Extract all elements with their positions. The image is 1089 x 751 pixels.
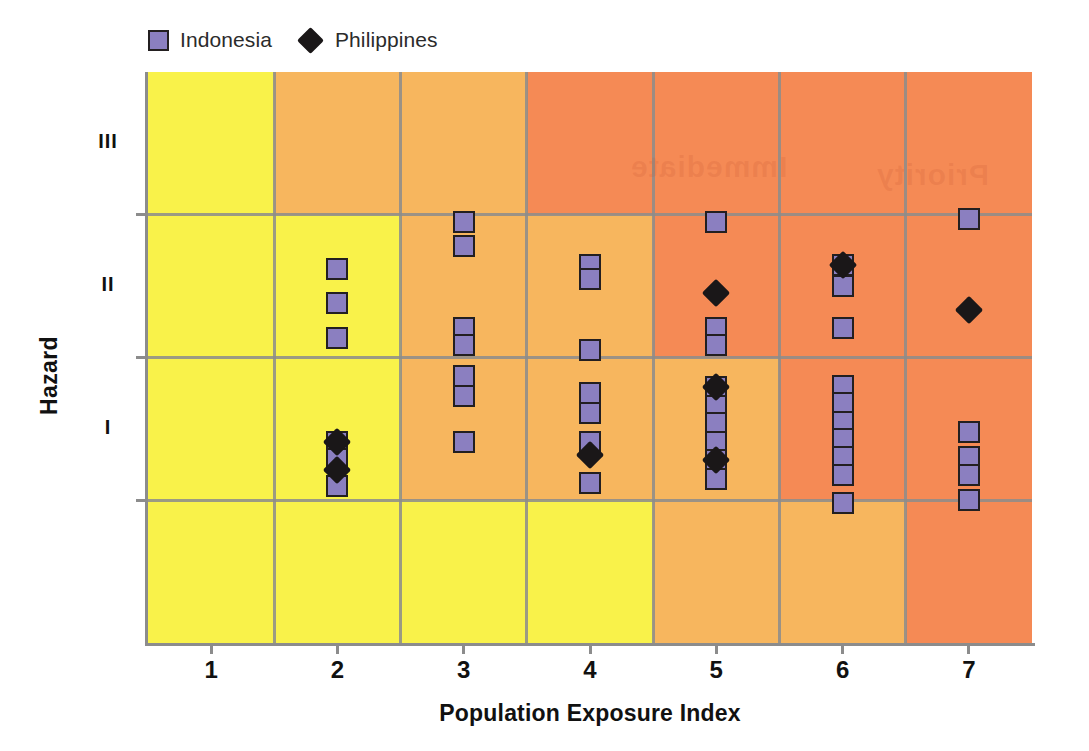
data-point-diamond xyxy=(703,447,729,473)
data-point-square xyxy=(705,211,727,233)
risk-cell xyxy=(401,500,527,643)
square-marker-icon xyxy=(453,385,475,407)
risk-cell xyxy=(274,500,400,643)
data-point-square xyxy=(453,334,475,356)
square-marker-icon xyxy=(832,492,854,514)
grid-line-horizontal xyxy=(148,213,1032,216)
square-marker-icon xyxy=(958,208,980,230)
diamond-marker-icon xyxy=(703,374,729,400)
risk-matrix-figure: Indonesia Philippines Hazard Immediate P… xyxy=(0,0,1089,751)
risk-cell xyxy=(653,72,779,215)
square-marker-icon xyxy=(453,431,475,453)
grid-line-horizontal xyxy=(148,499,1032,502)
data-point-diamond xyxy=(956,297,982,323)
risk-cell xyxy=(274,72,400,215)
square-marker-icon xyxy=(579,268,601,290)
square-marker-icon xyxy=(958,421,980,443)
diamond-marker-icon xyxy=(577,442,603,468)
square-marker-icon xyxy=(326,292,348,314)
data-point-square xyxy=(832,317,854,339)
data-point-square xyxy=(832,464,854,486)
plot-area: Immediate Priority xyxy=(148,72,1032,643)
risk-cell xyxy=(148,358,274,501)
risk-cell xyxy=(148,72,274,215)
y-tick-label: I xyxy=(86,416,130,439)
square-marker-icon xyxy=(705,334,727,356)
data-point-square xyxy=(453,211,475,233)
risk-cell xyxy=(527,500,653,643)
legend-label-indonesia: Indonesia xyxy=(180,28,272,52)
data-point-square xyxy=(958,421,980,443)
y-axis-tick xyxy=(136,213,147,216)
x-axis-tick xyxy=(967,643,970,654)
data-point-square xyxy=(453,235,475,257)
square-marker-icon xyxy=(326,258,348,280)
x-axis-tick xyxy=(715,643,718,654)
risk-cell xyxy=(527,72,653,215)
x-tick-label: 5 xyxy=(686,656,746,684)
data-point-square xyxy=(579,339,601,361)
x-tick-label: 2 xyxy=(307,656,367,684)
y-axis-spine xyxy=(145,72,148,646)
x-axis-title: Population Exposure Index xyxy=(148,700,1032,727)
data-point-diamond xyxy=(324,457,350,483)
y-axis-tick xyxy=(136,356,147,359)
risk-cell xyxy=(148,215,274,358)
data-point-diamond xyxy=(703,280,729,306)
data-point-square xyxy=(958,489,980,511)
legend-item-philippines: Philippines xyxy=(298,27,438,53)
square-marker-icon xyxy=(958,489,980,511)
x-tick-label: 1 xyxy=(181,656,241,684)
x-axis-tick xyxy=(589,643,592,654)
diamond-marker-icon xyxy=(324,429,350,455)
risk-cell xyxy=(779,72,905,215)
data-point-square xyxy=(832,492,854,514)
risk-cell xyxy=(906,215,1032,358)
x-axis-tick xyxy=(841,643,844,654)
data-point-diamond xyxy=(703,374,729,400)
square-marker-icon xyxy=(579,339,601,361)
x-tick-label: 4 xyxy=(560,656,620,684)
data-point-diamond xyxy=(324,429,350,455)
risk-cell xyxy=(779,500,905,643)
data-point-square xyxy=(579,268,601,290)
x-tick-label: 6 xyxy=(813,656,873,684)
diamond-marker-icon xyxy=(324,457,350,483)
data-point-square xyxy=(326,292,348,314)
square-marker-icon xyxy=(958,464,980,486)
legend-item-indonesia: Indonesia xyxy=(148,28,272,52)
data-point-square xyxy=(326,258,348,280)
diamond-marker-icon xyxy=(703,280,729,306)
chart-legend: Indonesia Philippines xyxy=(148,22,438,58)
data-point-diamond xyxy=(577,442,603,468)
data-point-square xyxy=(579,472,601,494)
data-point-square xyxy=(326,327,348,349)
square-marker-icon xyxy=(453,365,475,387)
square-marker-icon xyxy=(453,211,475,233)
square-marker-icon xyxy=(832,317,854,339)
diamond-marker-icon xyxy=(298,27,324,53)
x-tick-label: 3 xyxy=(434,656,494,684)
diamond-marker-icon xyxy=(956,297,982,323)
data-point-square xyxy=(579,382,601,404)
x-tick-label: 7 xyxy=(939,656,999,684)
square-marker-icon xyxy=(453,235,475,257)
square-marker-icon xyxy=(579,472,601,494)
x-axis-tick xyxy=(210,643,213,654)
risk-cell xyxy=(653,500,779,643)
square-marker-icon xyxy=(326,327,348,349)
square-marker-icon xyxy=(148,30,169,51)
risk-cell xyxy=(148,500,274,643)
risk-cell xyxy=(906,500,1032,643)
data-point-square xyxy=(958,464,980,486)
x-axis-tick xyxy=(336,643,339,654)
legend-label-philippines: Philippines xyxy=(335,28,438,52)
risk-cell xyxy=(906,72,1032,215)
y-tick-label: II xyxy=(86,273,130,296)
square-marker-icon xyxy=(579,402,601,424)
data-point-square xyxy=(453,365,475,387)
square-marker-icon xyxy=(832,464,854,486)
data-point-diamond xyxy=(830,252,856,278)
square-marker-icon xyxy=(579,382,601,404)
data-point-square xyxy=(705,334,727,356)
